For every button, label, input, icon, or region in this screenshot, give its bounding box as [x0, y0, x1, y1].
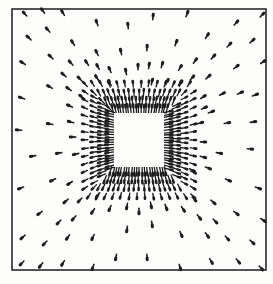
arrow-head — [106, 167, 109, 168]
arrow-head — [241, 92, 243, 93]
arrow-head — [178, 103, 180, 104]
arrow-head — [41, 9, 42, 10]
arrow-head — [164, 89, 165, 91]
arrow-head — [160, 105, 161, 108]
arrow-head — [83, 181, 85, 182]
arrow-head — [99, 98, 101, 100]
arrow-head — [72, 219, 73, 220]
arrow-head — [263, 13, 264, 14]
arrow-head — [68, 105, 70, 106]
arrow-head — [98, 110, 100, 111]
arrow-head — [204, 96, 205, 97]
arrow-head — [110, 180, 111, 182]
arrow-head — [208, 236, 209, 237]
vector-field-plot — [0, 0, 273, 284]
arrow-head — [162, 197, 163, 199]
arrow-head — [166, 208, 167, 210]
arrow-head — [118, 90, 119, 92]
arrow-head — [177, 106, 179, 107]
arrow-head — [154, 188, 155, 190]
arrow-head — [185, 122, 187, 123]
arrow-head — [96, 76, 97, 77]
arrow-head — [185, 163, 187, 164]
arrow-head — [78, 77, 79, 78]
arrow-head — [164, 97, 165, 99]
arrow-head — [262, 269, 263, 270]
arrow-head — [178, 110, 180, 111]
arrow-head — [111, 105, 112, 108]
arrow-head — [170, 116, 173, 117]
arrow-head — [184, 210, 185, 211]
arrow-head — [196, 59, 197, 60]
arrow-head — [91, 173, 93, 174]
arrow-head — [180, 268, 181, 270]
arrow-head — [120, 172, 121, 175]
arrow-head — [194, 173, 196, 174]
arrow-head — [91, 183, 93, 184]
arrow-head — [229, 181, 231, 182]
arrow-head — [91, 168, 93, 169]
arrow-head — [177, 166, 179, 167]
arrow-head — [264, 61, 265, 62]
arrow-head — [178, 177, 180, 178]
arrow-head — [178, 124, 180, 125]
arrow-head — [98, 124, 100, 125]
arrow-head — [209, 75, 210, 76]
arrow-head — [106, 169, 109, 170]
arrow-head — [98, 162, 100, 163]
central-square-source — [114, 113, 164, 167]
arrow-head — [167, 97, 168, 99]
arrow-head — [178, 163, 180, 164]
arrow-head — [69, 61, 70, 62]
arrow-head — [165, 188, 166, 190]
arrow-head — [66, 238, 67, 239]
arrow-head — [121, 181, 122, 183]
arrow-head — [113, 180, 114, 182]
arrow-head — [98, 166, 100, 167]
arrow-head — [118, 173, 119, 176]
arrow-head — [187, 11, 188, 13]
arrow-head — [160, 189, 161, 191]
arrow-head — [259, 188, 261, 189]
arrow-head — [104, 181, 105, 183]
arrow-head — [176, 40, 177, 42]
arrow-head — [97, 188, 98, 190]
arrow-head — [181, 66, 182, 67]
arrow-head — [174, 97, 175, 99]
arrow-head — [178, 159, 180, 160]
arrow-head — [106, 121, 109, 122]
arrow-head — [91, 90, 93, 92]
arrow-head — [99, 170, 101, 171]
arrow-head — [170, 170, 173, 171]
arrow-head — [100, 81, 101, 83]
arrow-head — [107, 97, 108, 99]
arrow-head — [179, 90, 180, 92]
arrow-head — [169, 161, 172, 162]
arrow-head — [170, 181, 171, 183]
arrow-head — [78, 201, 79, 202]
arrow-head — [109, 209, 110, 211]
arrow-head — [96, 51, 97, 53]
arrow-head — [102, 188, 103, 190]
arrow-head — [48, 86, 50, 87]
arrow-head — [181, 235, 182, 237]
arrow-head — [173, 180, 174, 182]
arrow-head — [169, 197, 170, 199]
arrow-head — [205, 107, 207, 108]
arrow-head — [177, 169, 179, 170]
arrow-head — [46, 28, 47, 29]
arrow-head — [19, 188, 21, 189]
arrow-head — [92, 238, 93, 240]
arrow-head — [82, 107, 84, 108]
arrow-head — [27, 36, 28, 37]
arrow-head — [190, 82, 191, 84]
arrow-head — [194, 115, 196, 116]
arrow-head — [106, 110, 109, 111]
arrow-head — [92, 188, 93, 190]
arrow-head — [194, 98, 196, 99]
arrow-head — [68, 184, 69, 185]
arrow-head — [156, 181, 157, 183]
arrow-head — [237, 214, 238, 215]
arrow-head — [109, 68, 110, 70]
arrow-head — [194, 181, 196, 182]
